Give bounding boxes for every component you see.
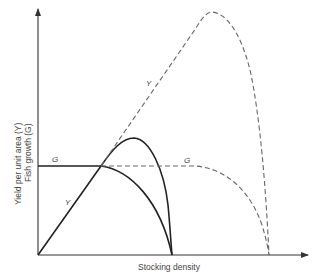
y-axis-label-yield: Yield per unit area (Y) <box>13 122 23 205</box>
label-y-solid: Y <box>65 198 71 207</box>
y-axis-label-growth: Fish growth (G) <box>23 123 33 182</box>
label-g-solid: G <box>52 155 58 164</box>
chart: G Y Y G Stocking density Yield per unit … <box>0 0 319 278</box>
label-y-dashed: Y <box>146 79 152 88</box>
label-g-dashed: G <box>184 156 190 165</box>
growth-curve-dashed <box>101 166 269 255</box>
yield-curve-dashed <box>101 12 269 255</box>
x-axis-label: Stocking density <box>138 262 201 272</box>
growth-curve-solid <box>38 166 172 255</box>
